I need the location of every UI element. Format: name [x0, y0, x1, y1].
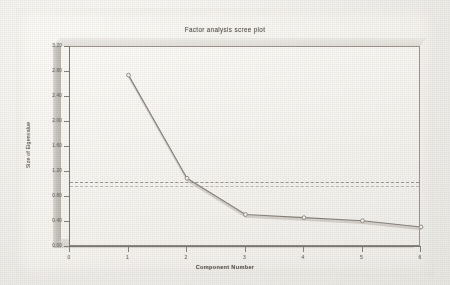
y-axis-tick-label: 0.40 — [38, 218, 62, 223]
data-point-marker — [419, 225, 423, 229]
x-axis-tick — [245, 247, 246, 252]
x-axis-tick-label: 4 — [295, 254, 311, 260]
y-axis-tick — [64, 71, 69, 72]
x-axis-title: Component Number — [16, 264, 434, 270]
data-point-marker — [361, 219, 365, 223]
y-axis-tick — [64, 46, 69, 47]
x-axis-tick-label: 0 — [61, 254, 77, 260]
x-axis-tick-label: 3 — [237, 254, 253, 260]
y-axis-tick — [64, 196, 69, 197]
x-axis-tick — [303, 247, 304, 252]
x-axis-tick — [186, 247, 187, 252]
data-point-marker — [302, 216, 306, 220]
plot-inner — [70, 47, 419, 245]
y-axis-tick-label: 0.00 — [38, 243, 62, 248]
plot-area — [69, 46, 420, 246]
y-axis-tick-label: 2.00 — [38, 118, 62, 123]
chart-title: Factor analysis scree plot — [16, 26, 434, 33]
data-point-marker — [185, 176, 189, 180]
eigenvalue-series — [70, 47, 421, 247]
data-point-marker — [244, 213, 248, 217]
y-axis-tick-label: 1.60 — [38, 143, 62, 148]
y-axis-tick — [64, 146, 69, 147]
frame-bevel-top — [53, 38, 427, 46]
y-axis-tick-label: 0.80 — [38, 193, 62, 198]
series-line — [129, 75, 422, 227]
x-axis-tick — [420, 247, 421, 252]
y-axis-tick — [64, 96, 69, 97]
scanned-page: Factor analysis scree plot 3.202.802.402… — [0, 0, 450, 285]
x-axis-tick-label: 5 — [354, 254, 370, 260]
data-point-marker — [127, 73, 131, 77]
x-axis-tick-label: 6 — [412, 254, 428, 260]
y-axis-tick-label: 2.80 — [38, 68, 62, 73]
x-axis-tick-label: 1 — [120, 254, 136, 260]
x-axis-tick-label: 2 — [178, 254, 194, 260]
y-axis-tick-label: 1.20 — [38, 168, 62, 173]
y-axis-tick-label: 3.20 — [38, 43, 62, 48]
y-axis-tick — [64, 221, 69, 222]
x-axis-tick — [362, 247, 363, 252]
y-axis-tick — [64, 121, 69, 122]
y-axis-tick — [64, 171, 69, 172]
x-axis-tick — [69, 247, 70, 252]
y-axis-tick-label: 2.40 — [38, 93, 62, 98]
y-axis-title: Size of Eigenvalue — [25, 95, 31, 195]
chart-canvas: Factor analysis scree plot 3.202.802.402… — [16, 8, 434, 276]
y-axis-line — [69, 46, 70, 247]
x-axis-tick — [128, 247, 129, 252]
